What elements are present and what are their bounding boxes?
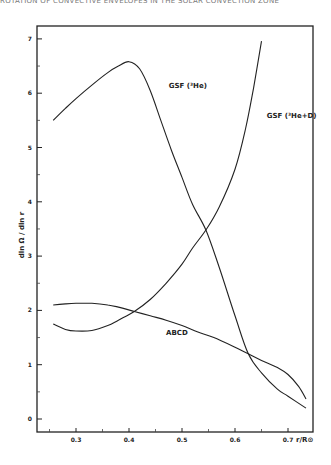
x-tick-label: 0.6 <box>230 436 241 443</box>
y-tick-label: 3 <box>28 252 32 259</box>
line-chart: 01234567 0.30.40.50.60.7 GSF (³He)GSF (³… <box>0 0 331 465</box>
series-line-1 <box>53 41 261 331</box>
y-tick-label: 0 <box>28 415 32 422</box>
x-axis-label: r/R⊙ <box>296 436 313 444</box>
x-tick-label: 0.5 <box>177 436 188 443</box>
x-axis-ticks: 0.30.40.50.60.7 <box>50 428 294 443</box>
x-tick-label: 0.7 <box>283 436 294 443</box>
chart-curves <box>53 41 306 408</box>
series-line-2 <box>53 303 306 399</box>
y-tick-label: 2 <box>28 306 32 313</box>
series-label-0: GSF (³He) <box>169 82 207 90</box>
y-tick-label: 7 <box>28 35 32 42</box>
y-tick-label: 5 <box>28 144 32 151</box>
y-tick-label: 4 <box>28 198 32 205</box>
y-tick-label: 1 <box>28 361 32 368</box>
x-tick-label: 0.3 <box>71 436 82 443</box>
x-tick-label: 0.4 <box>124 436 135 443</box>
series-label-2: ABCD <box>166 329 188 337</box>
y-tick-label: 6 <box>28 89 32 96</box>
y-axis-label: dln Ω / dln r <box>18 211 26 258</box>
series-labels: GSF (³He)GSF (³He+D)ABCD <box>166 82 316 337</box>
y-axis-ticks: 01234567 <box>28 35 42 422</box>
series-label-1: GSF (³He+D) <box>267 112 317 120</box>
